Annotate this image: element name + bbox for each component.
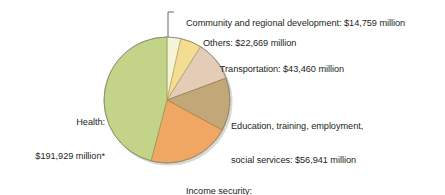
slice-label-line2: $191,929 million* (9, 151, 105, 162)
slice-label-line1: Health: (9, 117, 105, 128)
slice-label-income-security: Income security: $88,333 million (186, 163, 252, 195)
slice-label-health: Health: $191,929 million* (9, 94, 105, 185)
slice-label-text: Others: $22,669 million (203, 38, 296, 48)
slice-label-text: Transportation: $43,460 million (220, 64, 344, 74)
pie-chart-figure: Community and regional development: $14,… (0, 0, 445, 195)
slice-label-transportation: Transportation: $43,460 million (210, 53, 344, 87)
slice-label-line1: Income security: (186, 186, 252, 195)
leader-line-community (168, 12, 174, 37)
slice-label-line1: Education, training, employment, (231, 121, 363, 132)
